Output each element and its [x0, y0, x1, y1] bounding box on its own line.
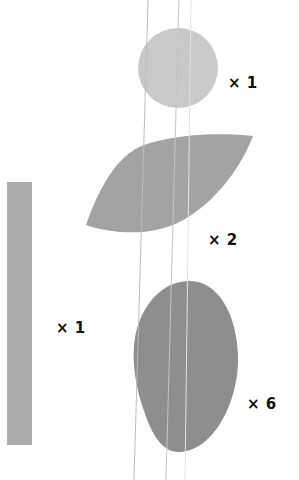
bar-shape — [7, 182, 32, 445]
oval-count-label: × 6 — [247, 397, 277, 412]
leaf-count-label: × 2 — [208, 233, 238, 248]
bar-count-label: × 1 — [56, 321, 86, 336]
leaf-shape — [86, 134, 253, 232]
circle-count-label: × 1 — [228, 76, 258, 91]
